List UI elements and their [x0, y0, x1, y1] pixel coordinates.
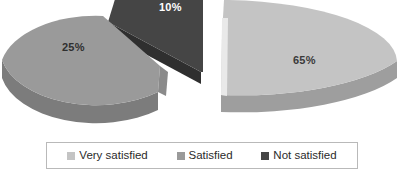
legend-swatch-icon [177, 152, 185, 160]
legend-label: Very satisfied [79, 150, 147, 162]
chart-legend: Very satisfied Satisfied Not satisfied [46, 142, 358, 169]
legend-label: Not satisfied [273, 150, 336, 162]
legend-swatch-icon [67, 152, 75, 160]
pie-chart-graphic [0, 0, 405, 140]
legend-item-not-satisfied[interactable]: Not satisfied [261, 150, 336, 162]
pie-slice-very-satisfied-cut [221, 18, 228, 96]
legend-item-satisfied[interactable]: Satisfied [177, 150, 233, 162]
legend-item-very-satisfied[interactable]: Very satisfied [67, 150, 147, 162]
legend-label: Satisfied [189, 150, 233, 162]
pie-chart: 65% 25% 10% Very satisfied Satisfied Not… [0, 0, 405, 177]
pie-slice-very-satisfied[interactable] [221, 0, 397, 112]
legend-swatch-icon [261, 152, 269, 160]
